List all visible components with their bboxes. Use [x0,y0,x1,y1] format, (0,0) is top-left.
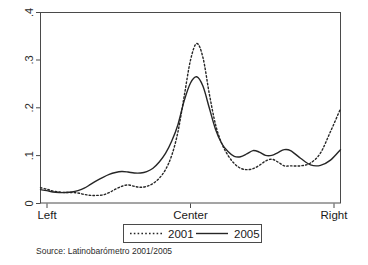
legend-label-2001: 2001 [168,228,194,240]
y-tick-label-2: .2 [23,103,35,112]
y-tick-label-1: .1 [23,151,35,160]
chart-figure: 0 .1 .2 .3 .4 Left Center Right 2001 200… [0,0,368,265]
chart-legend: 2001 2005 [124,225,262,243]
source-note: Source: Latinobarómetro 2001/2005 [36,246,172,256]
y-tick-label-4: .4 [23,8,35,17]
x-tick-label-left: Left [37,209,57,221]
y-tick-label-3: .3 [23,55,35,64]
x-tick-label-right: Right [321,209,349,221]
y-tick-label-0: 0 [23,200,35,206]
x-tick-label-center: Center [173,209,208,221]
legend-label-2005: 2005 [234,228,260,240]
